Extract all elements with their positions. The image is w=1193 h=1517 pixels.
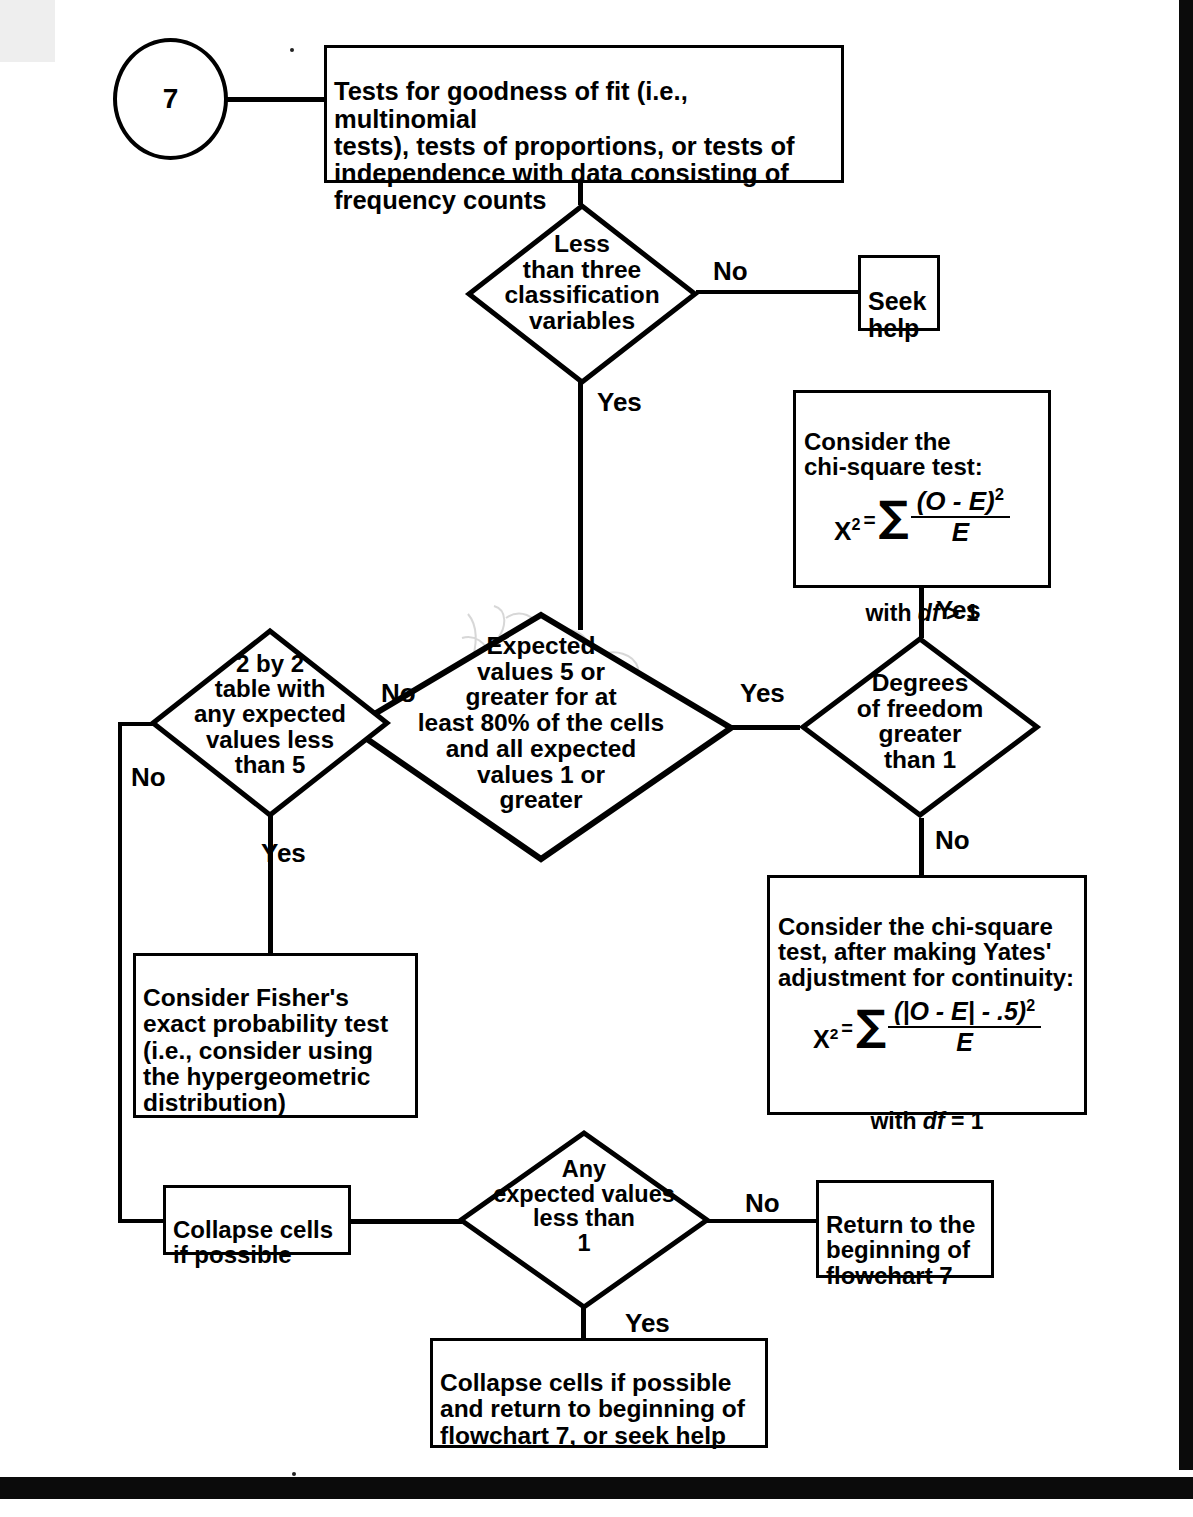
node-return-box: Return to the beginning of flowchart 7 bbox=[816, 1180, 994, 1278]
node-any-expected-diamond: Any expected values less than 1 bbox=[458, 1130, 710, 1310]
chisquare-formula: X2 = ∑ (O - E)2 E bbox=[804, 486, 1040, 547]
edge-entry-to-start bbox=[224, 97, 324, 102]
node-any-expected-text: Any expected values less than 1 bbox=[458, 1157, 710, 1256]
node-fisher-box: Consider Fisher's exact probability test… bbox=[133, 953, 418, 1118]
edge-label-anyexpected-yes: Yes bbox=[625, 1308, 670, 1339]
node-twobytwo-text: 2 by 2 table with any expected values le… bbox=[150, 651, 390, 777]
edge-anyexpected-yes bbox=[581, 1308, 586, 1340]
yates-numerator: (|O - E| - .5)2 bbox=[888, 997, 1041, 1028]
edge-label-expected-no: No bbox=[381, 678, 416, 709]
node-start-text: Tests for goodness of fit (i.e., multino… bbox=[334, 77, 794, 214]
node-degrees-freedom-text: Degrees of freedom greater than 1 bbox=[800, 670, 1040, 773]
yates-denominator: E bbox=[950, 1028, 979, 1056]
edge-label-classification-no: No bbox=[713, 256, 748, 287]
edge-label-df-no: No bbox=[935, 825, 970, 856]
chisquare-fraction: (O - E)2 E bbox=[911, 486, 1010, 547]
node-chisquare-box: Consider the chi-square test: X2 = ∑ (O … bbox=[793, 390, 1051, 588]
node-expected-values-diamond: Expected values 5 or greater for at leas… bbox=[348, 612, 734, 862]
node-yates-title: Consider the chi-square test, after maki… bbox=[778, 913, 1074, 991]
edge-label-classification-yes: Yes bbox=[597, 387, 642, 418]
edge-classification-yes bbox=[578, 382, 583, 630]
chisquare-df-note: with df > 1 bbox=[804, 576, 1040, 625]
chisquare-lhs: X2 bbox=[834, 488, 860, 545]
edge-label-anyexpected-no: No bbox=[745, 1188, 780, 1219]
node-expected-values-text: Expected values 5 or greater for at leas… bbox=[348, 633, 734, 813]
edge-label-twobytwo-no: No bbox=[131, 762, 166, 793]
node-return-text: Return to the beginning of flowchart 7 bbox=[826, 1211, 975, 1289]
flowchart-page: 7 Tests for goodness of fit (i.e., multi… bbox=[0, 0, 1193, 1517]
node-collapse-return-box: Collapse cells if possible and return to… bbox=[430, 1338, 768, 1448]
flowchart-entry-label: 7 bbox=[163, 83, 179, 115]
node-collapse-cells-box: Collapse cells if possible bbox=[163, 1185, 351, 1255]
scan-artifact-right-edge bbox=[1179, 0, 1193, 1470]
edge-df-no bbox=[919, 818, 924, 876]
yates-lhs: X2 bbox=[813, 999, 838, 1053]
edge-label-chisq-yes: Yes bbox=[936, 595, 981, 626]
node-fisher-text: Consider Fisher's exact probability test… bbox=[143, 984, 388, 1116]
edge-classification-no bbox=[696, 290, 858, 294]
node-collapse-return-text: Collapse cells if possible and return to… bbox=[440, 1369, 745, 1448]
edge-collapse-to-anyexpected bbox=[348, 1219, 462, 1224]
scan-artifact-corner bbox=[0, 0, 55, 62]
chisquare-numerator: (O - E)2 bbox=[911, 486, 1010, 518]
yates-fraction: (|O - E| - .5)2 E bbox=[888, 997, 1041, 1056]
scan-artifact-bottom-edge bbox=[0, 1477, 1193, 1499]
scan-speck bbox=[290, 48, 294, 52]
node-collapse-cells-text: Collapse cells if possible bbox=[173, 1216, 333, 1269]
edge-twobytwo-yes bbox=[268, 815, 273, 953]
edge-twobytwo-no-h2 bbox=[118, 1219, 168, 1223]
scan-speck bbox=[292, 1472, 296, 1476]
node-start-box: Tests for goodness of fit (i.e., multino… bbox=[324, 45, 844, 183]
yates-df-note: with df = 1 bbox=[778, 1084, 1076, 1133]
edge-anyexpected-no bbox=[706, 1219, 816, 1223]
chisquare-equals: = bbox=[863, 509, 875, 531]
node-degrees-freedom-diamond: Degrees of freedom greater than 1 bbox=[800, 636, 1040, 818]
chisquare-denominator: E bbox=[946, 518, 975, 547]
edge-twobytwo-no-v bbox=[118, 722, 122, 1222]
edge-expected-yes bbox=[730, 725, 800, 730]
node-classification-text: Less than three classification variables bbox=[466, 231, 698, 334]
node-classification-diamond: Less than three classification variables bbox=[466, 203, 698, 385]
edge-label-twobytwo-yes: Yes bbox=[261, 838, 306, 869]
node-seek-help-text: Seek help bbox=[868, 287, 926, 342]
node-chisquare-title: Consider the chi-square test: bbox=[804, 428, 983, 481]
flowchart-entry-circle: 7 bbox=[113, 38, 228, 160]
edge-label-expected-yes: Yes bbox=[740, 678, 785, 709]
yates-equals: = bbox=[841, 1018, 853, 1039]
sigma-icon: ∑ bbox=[879, 500, 909, 534]
node-yates-box: Consider the chi-square test, after maki… bbox=[767, 875, 1087, 1115]
yates-formula: X2 = ∑ (|O - E| - .5)2 E bbox=[778, 997, 1076, 1056]
node-seek-help-box: Seek help bbox=[858, 255, 940, 331]
node-twobytwo-diamond: 2 by 2 table with any expected values le… bbox=[150, 628, 390, 818]
sigma-icon: ∑ bbox=[856, 1009, 886, 1043]
